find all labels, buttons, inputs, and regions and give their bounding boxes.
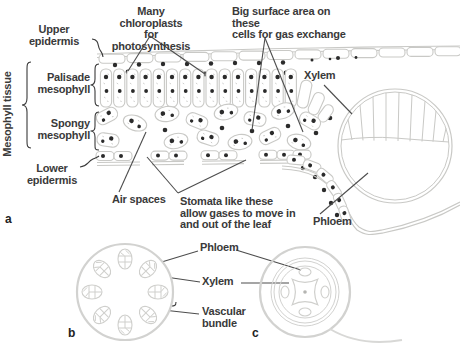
mesophyll-tissue-brace xyxy=(22,62,31,148)
vein-circle xyxy=(338,89,452,203)
palisade-brace xyxy=(91,64,100,106)
label-big-surface-area: Big surface area on these cells for gas … xyxy=(232,6,356,41)
stomata-leader-right xyxy=(178,160,246,193)
label-palisade-mesophyll: Palisade mesophyll xyxy=(32,72,90,95)
phloem-pocket-w xyxy=(281,286,289,298)
label-spongy-mesophyll: Spongy mesophyll xyxy=(32,118,90,141)
phloem-pocket-e xyxy=(321,286,329,298)
label-xylem-cross-sections: Xylem xyxy=(202,276,233,288)
stomata-leader-left xyxy=(147,157,178,193)
phloem-pocket-n xyxy=(299,268,311,276)
panel-letter-a: a xyxy=(5,212,12,226)
root-tail-curve xyxy=(330,329,402,342)
label-vascular-bundle: Vascular bundle xyxy=(202,306,262,329)
label-phloem-cross-sections: Phloem xyxy=(200,242,239,254)
label-xylem-leaf: Xylem xyxy=(304,70,335,82)
label-stomata: Stomata like these allow gases to move i… xyxy=(180,196,300,231)
lower-epidermis-cells xyxy=(96,150,311,160)
midrib-lower-surface xyxy=(282,166,460,235)
stem-cross-section-b xyxy=(77,244,173,340)
label-lower-epidermis: Lower epidermis xyxy=(16,163,88,186)
panel-letter-b: b xyxy=(68,326,75,340)
label-upper-epidermis: Upper epidermis xyxy=(18,24,90,47)
phloem-pocket-s xyxy=(299,308,311,316)
label-air-spaces: Air spaces xyxy=(112,194,166,206)
root-cross-section-c xyxy=(260,247,402,342)
label-many-chloroplasts: Many chloroplasts for photosynthesis xyxy=(106,6,196,52)
label-phloem-leaf: Phloem xyxy=(313,216,352,228)
leaf-structure-figure: Many chloroplasts for photosynthesis Big… xyxy=(0,0,460,353)
label-mesophyll-tissue: Mesophyll tissue xyxy=(2,59,16,169)
